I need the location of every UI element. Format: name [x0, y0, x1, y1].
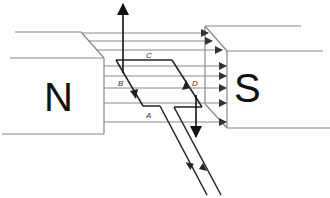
edge-label-d: D [192, 79, 198, 88]
south-magnet [205, 26, 330, 128]
edge-label-b: B [118, 79, 124, 88]
diagram-canvas: N S C B D A [0, 0, 330, 198]
north-pole-label: N [44, 75, 73, 119]
edge-label-c: C [146, 51, 152, 60]
edge-label-a: A [145, 111, 151, 120]
south-pole-label: S [234, 66, 261, 110]
current-arrow-b-icon [130, 89, 138, 99]
motor-diagram: N S C B D A [0, 0, 330, 198]
